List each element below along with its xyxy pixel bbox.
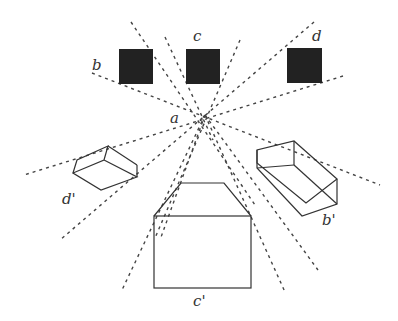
label-a: a [170,109,179,127]
label-c-prime: c' [193,292,206,310]
label-c: c [193,27,202,45]
perspective-diagram: a b c d d' c' b' [0,0,398,321]
box-d-prime [73,146,137,190]
square-b [119,49,153,84]
label-b-prime: b' [322,211,336,229]
box-c-prime [154,183,251,288]
label-d: d [312,27,322,45]
label-d-prime: d' [62,190,76,208]
square-d [287,48,322,83]
square-c [186,49,220,84]
label-b: b [92,56,102,74]
